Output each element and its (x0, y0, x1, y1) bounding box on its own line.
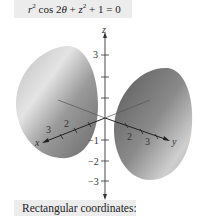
equation: r2 cos 2θ + z2 + 1 = 0 (28, 2, 121, 15)
hyperboloid-plot: z 3 −1 −2 −3 x 2 3 y 2 3 (0, 20, 211, 200)
left-surface-sheet (16, 46, 98, 158)
y-axis-label: y (171, 136, 177, 147)
z-tick-neg1: −1 (88, 135, 99, 146)
caption: Rectangular coordinates: (22, 202, 137, 214)
z-tick-3: 3 (93, 49, 98, 60)
x-tick-2: 2 (64, 118, 69, 129)
y-tick-3: 3 (145, 136, 150, 147)
x-tick-3: 3 (46, 124, 51, 135)
y-tick-2: 2 (127, 131, 132, 142)
eq-plus: + (67, 3, 79, 15)
eq-cos: cos 2 (36, 3, 62, 15)
z-tick-neg2: −2 (88, 156, 99, 167)
eq-rest: + 1 = 0 (86, 3, 120, 15)
x-axis-label: x (34, 137, 40, 148)
z-axis-label: z (101, 24, 106, 35)
z-tick-neg3: −3 (88, 176, 99, 187)
